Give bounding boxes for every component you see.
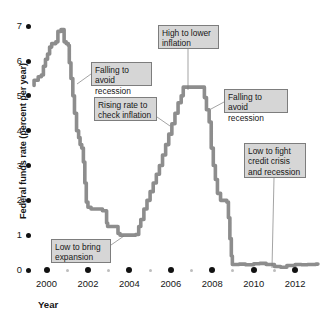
- annotation-leader-line: [111, 236, 124, 245]
- x-tick-dot-major: [251, 267, 257, 273]
- x-tick-dot-minor: [66, 269, 69, 272]
- annotation-leader-line: [77, 74, 91, 84]
- annotation-falling-to-avoid-recession-1: Falling to avoid recession: [91, 62, 152, 86]
- y-tick-dot: [26, 198, 31, 203]
- y-tick-label: 5: [8, 90, 22, 101]
- x-tick-label: 2002: [71, 278, 105, 289]
- x-tick-dot-major: [85, 267, 91, 273]
- y-tick-dot: [26, 233, 31, 238]
- y-tick-label: 3: [8, 160, 22, 171]
- y-tick-label: 4: [8, 125, 22, 136]
- annotation-high-to-lower-inflation: High to lower inflation: [158, 25, 219, 49]
- x-tick-dot-minor: [149, 269, 152, 272]
- x-tick-dot-minor: [190, 269, 193, 272]
- chart-container: Federal funds rate (percent per year) Ye…: [0, 0, 325, 321]
- y-tick-dot: [26, 268, 31, 273]
- y-tick-dot: [26, 59, 31, 64]
- annotation-rising-rate-to-check-inflation: Rising rate to check inflation: [94, 97, 157, 121]
- x-tick-label: 2000: [30, 278, 64, 289]
- y-tick-label: 2: [8, 194, 22, 205]
- x-tick-label: 2010: [237, 278, 271, 289]
- x-tick-dot-major: [168, 267, 174, 273]
- x-tick-dot-minor: [107, 269, 110, 272]
- x-tick-dot-minor: [273, 269, 276, 272]
- y-tick-label: 7: [8, 20, 22, 31]
- x-tick-label: 2004: [112, 278, 146, 289]
- y-tick-label: 0: [8, 264, 22, 275]
- y-tick-label: 1: [8, 229, 22, 240]
- annotation-low-to-bring-expansion: Low to bring expansion: [51, 239, 111, 263]
- y-tick-dot: [26, 163, 31, 168]
- x-tick-dot-major: [44, 267, 50, 273]
- y-tick-dot: [26, 24, 31, 29]
- annotation-leader-line: [211, 102, 224, 109]
- annotation-low-to-fight-credit-crisis: Low to fight credit crisis and recession: [244, 143, 306, 178]
- x-tick-label: 2012: [278, 278, 312, 289]
- annotation-falling-to-avoid-recession-2: Falling to avoid recession: [224, 89, 288, 113]
- x-tick-label: 2006: [154, 278, 188, 289]
- annotation-leader-line: [272, 178, 274, 268]
- annotation-leader-line: [157, 117, 170, 126]
- x-tick-label: 2008: [195, 278, 229, 289]
- y-tick-label: 6: [8, 55, 22, 66]
